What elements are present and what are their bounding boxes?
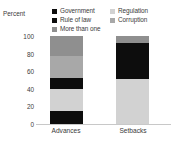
bar-segment-setbacks-more-than-one [116, 36, 149, 43]
bar-segment-advances-rule-of-law [50, 78, 83, 89]
bar-segment-advances-corruption [50, 56, 83, 78]
bar-segment-setbacks-rule-of-law [116, 43, 149, 79]
x-label-advances: Advances [36, 127, 96, 134]
bar-segment-advances-more-than-one [50, 36, 83, 56]
stacked-bar-chart: Government Rule of law More than one Reg… [0, 0, 173, 147]
x-axis-baseline [36, 124, 171, 125]
bar-segment-advances-government [50, 111, 83, 124]
bar-segment-setbacks-regulation [116, 79, 149, 124]
bar-setbacks [116, 36, 149, 124]
bar-segment-advances-regulation [50, 89, 83, 111]
bar-advances [50, 36, 83, 124]
x-label-setbacks: Setbacks [103, 127, 163, 134]
